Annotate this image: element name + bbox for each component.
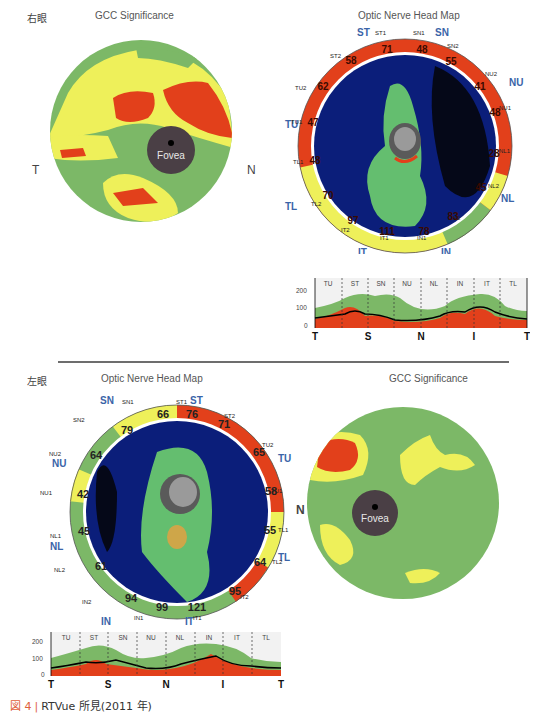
right-tsnit-sector: NU [402,280,412,287]
right-sector-value: 28 [488,148,500,159]
left-quadrant-NU: NU [52,458,66,469]
right-sector-value: 111 [379,226,395,237]
left-quadrant-SN: SN [100,395,114,406]
right-tsnit-sector: NL [430,280,439,287]
left-sector-value: 58 [265,485,277,497]
right-tsnit-sector: IN [457,280,464,287]
right-sector-value: 78 [418,226,430,237]
left-tsnit-sector: NL [176,634,185,641]
caption-text: RTVue 所見(2011 年) [41,700,152,713]
right-sector-name: NU2 [485,71,498,77]
left-sector-name: NL2 [54,567,66,573]
left-sector-name: SN1 [122,399,134,405]
left-quadrant-ST: ST [190,395,203,406]
left-tsnit-ytick: 100 [32,655,43,662]
left-tsnit-ytick: 0 [41,671,45,678]
right-tsnit-sector: TU [324,280,333,287]
left-tsnit-ytick: 200 [32,638,43,645]
right-gcc-temporal-letter: T [32,163,39,177]
left-sector-value: 64 [254,556,267,568]
right-sector-name: TU2 [295,85,307,91]
left-sector-value: 95 [229,585,241,597]
left-tsnit-chart: 200 100 0 TU ST SN NU NL IN IT TL T S N … [6,630,286,698]
left-sector-name: TL2 [272,559,283,565]
left-sector-name: NL1 [50,533,62,539]
right-sector-name: ST2 [330,53,342,59]
right-sector-name: ST1 [375,30,387,36]
left-sector-value: 42 [77,488,89,500]
right-quadrant-NL: NL [501,193,514,204]
left-sector-name: SN2 [73,417,85,423]
right-quadrant-IN: IN [441,247,451,254]
right-tsnit-xlabel: T [312,331,318,342]
right-tsnit-ytick: 100 [296,304,307,311]
left-tsnit-sector: SN [118,634,127,641]
left-sector-name: IT1 [193,615,202,621]
right-sector-value: 62 [317,81,329,92]
section-divider [58,361,509,363]
left-tsnit-xlabel: T [278,679,284,690]
left-quadrant-TU: TU [278,453,291,464]
left-tsnit-sector: IN [206,634,213,641]
left-sector-name: TL1 [278,527,289,533]
right-quadrant-TL: TL [285,201,297,212]
right-tsnit-ytick: 200 [296,287,307,294]
right-sector-value: 48 [309,155,321,166]
right-tsnit-chart: 200 100 0 TU ST SN NU NL IN IT TL T S N … [290,276,530,358]
left-quadrant-IN: IN [101,616,111,627]
left-sector-name: NU2 [49,451,62,457]
left-tsnit-sector: NU [146,634,156,641]
left-tsnit-sector: ST [90,634,98,641]
figure-caption: 図 4|RTVue 所見(2011 年) [10,697,152,713]
left-tsnit-sector: TU [62,634,71,641]
right-tsnit-xlabel: S [365,331,372,342]
right-tsnit-sector: ST [351,280,359,287]
left-fovea-label: Fovea [361,513,389,524]
right-gcc-title: GCC Significance [95,10,174,21]
right-sector-value: 45 [475,182,487,193]
left-sector-name: NU1 [40,490,53,496]
right-sector-value: 48 [416,44,428,55]
left-sector-value: 55 [264,524,276,536]
left-tsnit-sector: TL [262,634,270,641]
left-tsnit-xlabel: I [222,679,225,690]
right-tsnit-xlabel: I [473,331,476,342]
right-eye-label: 右眼 [27,10,47,25]
left-onh-title: Optic Nerve Head Map [101,373,203,384]
right-sector-name: TU1 [291,119,303,125]
right-sector-value: 47 [307,117,319,128]
left-gcc-title: GCC Significance [389,373,468,384]
left-sector-value: 76 [186,408,198,420]
right-onh-map: ST SN NU NL IN IT TL TU ST1 SN1 SN2 NU2 … [283,24,533,254]
right-sector-value: 97 [347,215,359,226]
right-sector-value: 41 [474,81,486,92]
left-gcc-significance-map: Fovea [305,405,501,601]
right-tsnit-sector: IT [484,280,490,287]
right-tsnit-xlabel: N [417,331,424,342]
caption-separator: | [35,700,39,713]
left-sector-value: 45 [78,525,90,537]
right-onh-title: Optic Nerve Head Map [358,10,460,21]
right-quadrant-ST: ST [357,27,370,38]
right-sector-name: NL1 [499,148,511,154]
right-quadrant-SN: SN [435,27,449,38]
right-sector-name: NU1 [499,105,512,111]
right-gcc-nasal-letter: N [247,163,256,177]
right-gcc-significance-map: Fovea [48,38,234,224]
left-sector-value: 61 [95,560,107,572]
left-sector-name: ST1 [176,399,188,405]
right-fovea-label: Fovea [157,150,185,161]
right-tsnit-xlabel: T [524,331,530,342]
left-sector-value: 94 [125,592,138,604]
right-sector-name: TL2 [311,201,322,207]
left-sector-name: IN1 [134,615,144,621]
right-sector-value: 83 [447,211,459,222]
left-sector-value: 64 [90,449,103,461]
left-tsnit-sector: IT [234,634,240,641]
right-tsnit-sector: TL [509,280,517,287]
left-onh-map: SN ST TU TL IT IN NL NU SN1 ST1 ST2 TU2 … [40,392,300,627]
right-sector-value: 70 [322,190,334,201]
left-sector-value: 71 [218,418,230,430]
right-sector-name: IT2 [341,227,350,233]
left-sector-value: 99 [156,601,168,613]
